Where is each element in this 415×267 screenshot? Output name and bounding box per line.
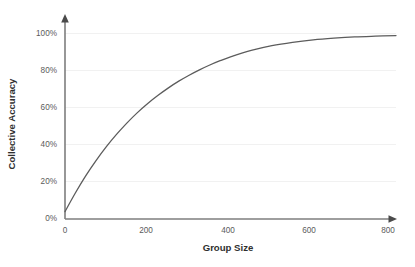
y-axis [61, 14, 69, 219]
y-axis-arrow-icon [61, 14, 69, 23]
y-tick-label-100: 100% [36, 29, 57, 38]
gridlines [65, 33, 396, 181]
y-tick-label-0: 0% [45, 214, 57, 223]
x-axis [65, 215, 397, 223]
x-tick-labels: 0 200 400 600 800 [63, 226, 396, 235]
x-axis-arrow-icon [389, 215, 398, 223]
x-tick-label-600: 600 [302, 226, 316, 235]
y-tick-label-20: 20% [41, 177, 57, 186]
y-tick-label-40: 40% [41, 140, 57, 149]
chart-container: 100% 80% 60% 40% 20% 0% 0 200 400 600 80… [0, 0, 415, 267]
x-axis-title: Group Size [203, 242, 254, 253]
x-tick-label-0: 0 [63, 226, 68, 235]
y-tick-label-80: 80% [41, 66, 57, 75]
x-tick-label-800: 800 [381, 226, 395, 235]
y-axis-title: Collective Accuracy [6, 78, 17, 169]
line-chart: 100% 80% 60% 40% 20% 0% 0 200 400 600 80… [0, 0, 415, 267]
x-tick-label-400: 400 [221, 226, 235, 235]
y-tick-labels: 100% 80% 60% 40% 20% 0% [36, 29, 57, 223]
y-tick-label-60: 60% [41, 103, 57, 112]
series-line-collective-accuracy [65, 36, 396, 212]
x-tick-label-200: 200 [139, 226, 153, 235]
